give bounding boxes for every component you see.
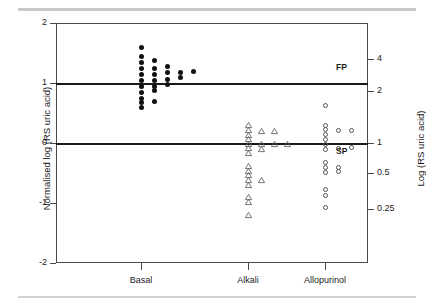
sp-band-label: SP xyxy=(336,146,347,156)
marker-basal xyxy=(152,78,157,83)
y-tick-label-left: -2 xyxy=(21,258,47,267)
marker-basal xyxy=(191,69,196,74)
x-tick xyxy=(248,263,249,270)
y-tick-left xyxy=(50,203,56,204)
marker-basal xyxy=(139,84,144,89)
marker-allopurinol xyxy=(336,169,341,174)
x-tick-label-allopurinol: Allopurinol xyxy=(280,275,370,285)
marker-basal xyxy=(139,60,144,65)
marker-allopurinol xyxy=(323,142,328,147)
y-tick-left xyxy=(50,23,56,24)
marker-basal xyxy=(139,72,144,77)
marker-basal xyxy=(139,105,144,110)
marker-allopurinol xyxy=(323,147,328,152)
marker-alkali xyxy=(258,128,265,134)
y-tick-right xyxy=(368,209,374,210)
reference-line-fp xyxy=(56,83,368,85)
marker-allopurinol xyxy=(323,205,328,210)
marker-basal xyxy=(178,75,183,80)
reference-line-sp xyxy=(56,143,368,145)
marker-basal xyxy=(139,90,144,95)
marker-allopurinol xyxy=(323,170,328,175)
marker-alkali xyxy=(284,141,291,147)
y-tick-label-left: 1 xyxy=(21,78,47,87)
x-tick xyxy=(141,263,142,270)
y-tick-label-left: 2 xyxy=(21,18,47,27)
marker-alkali xyxy=(271,141,278,147)
y-tick-label-left: -1 xyxy=(21,198,47,207)
y-tick-right xyxy=(368,143,374,144)
marker-allopurinol xyxy=(323,193,328,198)
y-tick-label-right: 0.5 xyxy=(377,168,411,177)
marker-basal xyxy=(165,70,170,75)
marker-basal xyxy=(178,70,183,75)
marker-basal xyxy=(152,88,157,93)
marker-basal xyxy=(139,66,144,71)
marker-basal xyxy=(152,72,157,77)
marker-allopurinol xyxy=(336,128,341,133)
x-tick xyxy=(325,263,326,270)
y-tick-right xyxy=(368,173,374,174)
marker-basal xyxy=(139,45,144,50)
marker-alkali xyxy=(258,146,265,152)
marker-basal xyxy=(139,100,144,105)
y-tick-label-right: 1 xyxy=(377,138,411,147)
marker-basal xyxy=(152,58,157,63)
y-tick-label-right: 0.25 xyxy=(377,204,411,213)
marker-allopurinol xyxy=(323,187,328,192)
marker-basal xyxy=(152,99,157,104)
marker-allopurinol xyxy=(349,128,354,133)
marker-basal xyxy=(139,54,144,59)
marker-basal xyxy=(139,78,144,83)
y-tick-right xyxy=(368,59,374,60)
marker-basal xyxy=(165,64,170,69)
y-tick-label-right: 4 xyxy=(377,54,411,63)
y-tick-right xyxy=(368,91,374,92)
marker-basal xyxy=(165,82,170,87)
marker-allopurinol xyxy=(349,145,354,150)
marker-alkali xyxy=(245,199,252,205)
fp-band-label: FP xyxy=(336,62,347,72)
marker-alkali xyxy=(271,128,278,134)
y-axis-title-right: Log (RS uric acid) xyxy=(415,59,426,239)
y-tick-label-right: 2 xyxy=(377,86,411,95)
marker-allopurinol xyxy=(323,103,328,108)
y-tick-left xyxy=(50,263,56,264)
marker-alkali xyxy=(245,150,252,156)
page-rule-top xyxy=(18,8,416,11)
page-rule-bottom xyxy=(18,296,416,298)
y-tick-label-left: 0 xyxy=(21,138,47,147)
x-tick-label-basal: Basal xyxy=(96,275,186,285)
marker-alkali xyxy=(258,177,265,183)
marker-alkali xyxy=(245,212,252,218)
marker-alkali xyxy=(245,182,252,188)
marker-basal xyxy=(152,66,157,71)
